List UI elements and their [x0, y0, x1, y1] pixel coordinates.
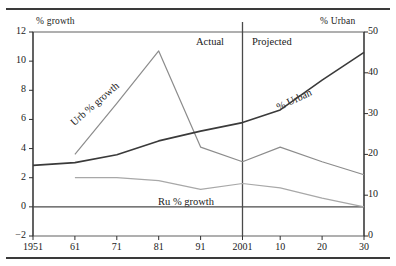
plot-area [0, 0, 396, 266]
plot-frame [33, 32, 364, 236]
series-line-urb-growth [75, 51, 364, 175]
series-line-ru-growth [75, 178, 364, 207]
series-line-urban [33, 52, 364, 165]
chart-figure: % growth % Urban Actual Projected Urb % … [0, 0, 396, 266]
